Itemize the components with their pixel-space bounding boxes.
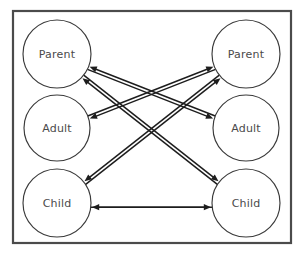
ego-state-node-left-adult[interactable]: Adult	[24, 95, 90, 161]
ego-state-label: Child	[43, 197, 72, 210]
ego-state-node-right-child[interactable]: Child	[212, 169, 280, 237]
ego-state-node-left-child[interactable]: Child	[23, 169, 91, 237]
ego-state-label: Parent	[39, 48, 76, 61]
ego-state-label: Adult	[231, 122, 261, 135]
ego-state-node-right-parent[interactable]: Parent	[212, 20, 280, 88]
diagram-canvas: ParentAdultChildParentAdultChild	[0, 0, 305, 260]
ego-state-label: Adult	[42, 122, 72, 135]
ego-state-label: Parent	[228, 48, 265, 61]
ego-state-node-left-parent[interactable]: Parent	[23, 20, 91, 88]
ego-state-node-right-adult[interactable]: Adult	[213, 95, 279, 161]
ego-state-label: Child	[232, 197, 261, 210]
pac-transaction-diagram: ParentAdultChildParentAdultChild	[0, 0, 305, 260]
